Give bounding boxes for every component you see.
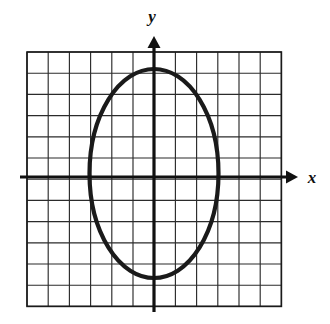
coordinate-graph-svg: x y bbox=[0, 0, 330, 324]
y-axis-label: y bbox=[146, 7, 156, 26]
graph-figure: x y bbox=[0, 0, 330, 324]
x-axis-label: x bbox=[307, 168, 317, 187]
